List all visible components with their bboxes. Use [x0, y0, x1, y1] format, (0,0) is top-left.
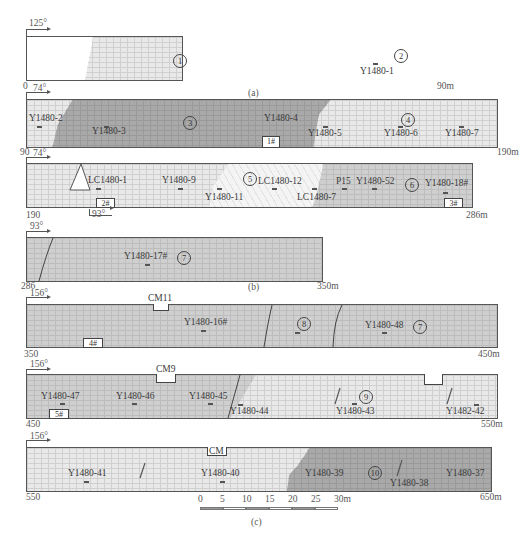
sample-label: LC1480-12	[258, 177, 302, 187]
sample-label: Y1480-11	[205, 193, 243, 203]
sample-marker	[84, 481, 89, 483]
sample-box-5: 5#	[49, 409, 69, 419]
sample-marker	[272, 188, 277, 190]
row7-start: 550	[26, 493, 40, 503]
row7-end: 650m	[480, 493, 502, 503]
section-panel-row4	[26, 237, 323, 282]
scale-tick-label: 25	[311, 495, 321, 505]
sample-label: Y1480-9	[162, 176, 196, 186]
row1-start: 0	[23, 82, 28, 92]
sample-label: Y1480-47	[41, 392, 80, 402]
scale-segment	[246, 507, 269, 510]
sample-label: Y1482-42	[446, 407, 485, 417]
panel-label-b: (b)	[248, 283, 259, 293]
sample-marker	[145, 264, 150, 266]
scale-segment	[269, 507, 292, 510]
notch-label: CM11	[148, 294, 172, 304]
unit-4-marker: 4	[401, 113, 415, 127]
dip-label-row6: 156°	[30, 360, 48, 370]
scale-tick-label: 5	[220, 495, 225, 505]
unit-3-marker: 3	[183, 116, 197, 130]
sample-box-1: 1#	[262, 136, 280, 148]
unit-7b-marker: 7	[413, 320, 427, 334]
sample-marker	[201, 330, 206, 332]
notch-cm11	[153, 304, 169, 311]
sample-label: Y1480-17#	[124, 252, 167, 262]
notch-label: CM	[209, 447, 224, 457]
sample-box-4: 4#	[83, 338, 103, 348]
notch-label: CM9	[156, 365, 176, 375]
notch-unlabeled	[424, 374, 443, 385]
sample-marker	[220, 481, 225, 483]
sample-label: Y1480-5	[308, 129, 342, 139]
unit-2-marker: 2	[394, 49, 408, 63]
sample-label: LC1480-1	[88, 176, 127, 186]
sample-marker	[217, 188, 222, 190]
sample-marker	[312, 188, 317, 190]
scale-tick-label: 30m	[334, 495, 351, 505]
sample-label: Y1480-46	[116, 392, 155, 402]
dip-label-row7: 156°	[30, 432, 48, 442]
sample-label: P15	[336, 177, 351, 187]
sample-label: Y1480-1	[360, 67, 394, 77]
sample-label: Y1480-4	[264, 114, 298, 124]
row2-end: 190m	[497, 148, 519, 158]
sample-marker	[132, 403, 137, 405]
sample-marker	[352, 403, 357, 405]
sample-marker	[208, 403, 213, 405]
scale-segment	[292, 507, 315, 510]
sample-marker	[96, 188, 101, 190]
sample-label: Y1480-52	[356, 177, 395, 187]
unit-10-marker: 10	[368, 466, 382, 480]
section-panel-row1-full	[26, 36, 183, 81]
sample-marker	[342, 188, 347, 190]
sample-label: Y1480-45	[189, 392, 228, 402]
panel-label-a: (a)	[248, 89, 259, 99]
scale-tick-label: 20	[288, 495, 298, 505]
notch-cm9	[156, 374, 176, 383]
dip-label-row2: 74°	[33, 84, 46, 94]
unit-6-marker: 6	[405, 178, 419, 192]
sample-label: Y1480-18#	[425, 179, 468, 189]
sample-label: Y1480-37	[446, 469, 485, 479]
unit-7-marker: 7	[177, 251, 191, 265]
unit-8-marker: 8	[297, 317, 311, 331]
row4-end: 350m	[317, 282, 339, 292]
sample-label: Y1480-41	[68, 469, 107, 479]
sample-label: LC1480-7	[297, 193, 336, 203]
sample-label: Y1480-48	[365, 321, 404, 331]
sample-marker	[295, 332, 300, 334]
row6-end: 550m	[481, 420, 503, 430]
sample-marker	[382, 332, 387, 334]
dip-label-row3: 74°	[33, 149, 46, 159]
sample-label: Y1480-7	[445, 129, 479, 139]
scale-tick-label: 0	[198, 495, 203, 505]
sample-label: Y1480-38	[390, 479, 429, 489]
scale-segment	[200, 507, 223, 510]
panel-label-c: (c)	[251, 518, 262, 528]
scale-segment	[315, 507, 338, 510]
unit-3-area	[52, 100, 342, 148]
dip-label-row5: 156°	[30, 289, 48, 299]
sample-label: Y1480-3	[92, 127, 126, 137]
sample-label: Y1480-16#	[184, 318, 227, 328]
unit-9-marker: 9	[359, 390, 373, 404]
dip-label-row1: 125°	[29, 19, 47, 29]
row5-end: 450m	[478, 350, 500, 360]
sample-label: Y1480-39	[305, 469, 344, 479]
sample-label: Y1480-43	[336, 407, 375, 417]
unit-5-marker: 5	[243, 172, 257, 186]
sample-marker	[443, 192, 448, 194]
scale-segment	[223, 507, 246, 510]
scale-tick-label: 15	[265, 495, 275, 505]
sample-box-3: 3#	[444, 198, 463, 208]
row6-start: 450	[26, 420, 40, 430]
dip-label-row4: 93°	[30, 222, 43, 232]
sample-label: Y1480-40	[201, 469, 240, 479]
sample-label: Y1480-6	[384, 129, 418, 139]
sample-marker	[373, 63, 378, 65]
sample-marker	[178, 188, 183, 190]
scale-tick-label: 10	[242, 495, 252, 505]
sample-label: Y1480-44	[230, 407, 269, 417]
sample-label: Y1480-2	[29, 114, 63, 124]
